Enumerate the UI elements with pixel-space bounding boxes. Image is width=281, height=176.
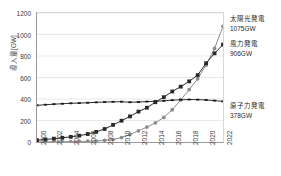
data-point [179, 85, 183, 89]
data-point [162, 100, 165, 102]
series-annotation-value: 378GW [230, 111, 265, 121]
data-point [61, 103, 64, 105]
x-tick-label: 2006 [90, 131, 97, 145]
data-point [103, 101, 106, 103]
data-point [170, 108, 174, 112]
data-point [196, 73, 200, 77]
data-point [179, 99, 182, 101]
data-point [221, 25, 223, 29]
chart-container: 導入量[GW] 020040060080010001200 2000200220… [0, 0, 281, 176]
data-point [196, 99, 199, 101]
series-annotation-2: 原子力発電378GW [230, 101, 265, 121]
x-tick-label: 2012 [141, 131, 148, 145]
data-point [204, 61, 208, 65]
data-point [213, 100, 216, 102]
data-point [128, 101, 131, 103]
y-tick-label: 1000 [17, 31, 31, 38]
data-point [221, 100, 223, 102]
data-point [213, 47, 217, 51]
series-annotation-name: 原子力発電 [230, 101, 265, 111]
data-point [153, 121, 157, 125]
data-point [44, 104, 47, 106]
x-tick-label: 2014 [158, 131, 165, 145]
data-point [187, 79, 191, 83]
x-tick-label: 2004 [73, 131, 80, 145]
data-point [213, 51, 217, 55]
data-point [95, 101, 98, 103]
data-point [170, 90, 174, 94]
y-axis-tick-labels: 020040060080010001200 [0, 0, 33, 176]
data-point [162, 95, 166, 99]
x-tick-label: 2000 [40, 131, 47, 145]
data-point [103, 127, 107, 131]
data-point [120, 119, 124, 123]
y-tick-label: 400 [20, 96, 31, 103]
data-point [188, 99, 191, 101]
x-tick-label: 2022 [226, 131, 233, 145]
data-point [145, 106, 149, 110]
series-annotation-value: 1075GW [230, 24, 265, 34]
series-line-1 [37, 45, 223, 141]
data-point [204, 99, 207, 101]
data-point [137, 110, 141, 114]
data-point [52, 103, 55, 105]
data-point [111, 101, 114, 103]
data-point [37, 138, 39, 142]
data-point [78, 102, 81, 104]
series-annotation-name: 風力発電 [230, 39, 258, 49]
data-point [162, 115, 166, 119]
x-axis-tick-labels: 2000200220042006200820102012201420162018… [36, 145, 224, 175]
data-point [187, 88, 191, 92]
data-point [137, 129, 141, 133]
data-point [154, 100, 157, 102]
data-point [120, 101, 123, 103]
y-tick-label: 0 [27, 139, 31, 146]
data-point [145, 125, 149, 129]
data-point [171, 99, 174, 101]
x-tick-label: 2002 [56, 131, 63, 145]
y-tick-label: 800 [20, 53, 31, 60]
data-point [196, 77, 200, 81]
series-canvas [37, 13, 223, 142]
x-tick-label: 2018 [192, 131, 199, 145]
x-tick-label: 2008 [107, 131, 114, 145]
data-point [120, 136, 124, 140]
data-point [103, 138, 107, 142]
series-annotation-value: 906GW [230, 49, 258, 59]
data-point [137, 101, 140, 103]
series-annotation-1: 風力発電906GW [230, 39, 258, 59]
x-tick-label: 2010 [124, 131, 131, 145]
data-point [111, 123, 115, 127]
data-point [69, 102, 72, 104]
y-tick-label: 600 [20, 74, 31, 81]
data-point [37, 104, 39, 106]
x-tick-label: 2016 [175, 131, 182, 145]
data-point [128, 115, 132, 119]
series-line-0 [37, 26, 223, 141]
data-point [221, 43, 223, 47]
series-annotation-name: 太陽光発電 [230, 14, 265, 24]
y-tick-label: 200 [20, 117, 31, 124]
x-tick-label: 2020 [209, 131, 216, 145]
data-point [86, 102, 89, 104]
series-annotation-0: 太陽光発電1075GW [230, 14, 265, 34]
plot-area [36, 12, 224, 143]
y-tick-label: 1200 [17, 10, 31, 17]
data-point [145, 101, 148, 103]
